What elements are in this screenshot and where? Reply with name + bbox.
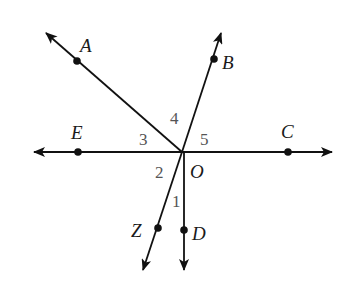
point-b	[210, 55, 218, 63]
label-angle-5: 5	[200, 130, 209, 149]
label-angle-3: 3	[139, 130, 148, 149]
label-angle-4: 4	[170, 109, 179, 128]
ray-oa	[46, 33, 182, 152]
label-point-c: C	[281, 121, 294, 142]
label-point-e: E	[70, 122, 83, 143]
point-a	[73, 57, 81, 65]
point-d	[180, 226, 188, 234]
label-point-o: O	[190, 161, 204, 182]
label-angle-1: 1	[172, 192, 181, 211]
point-c	[284, 148, 292, 156]
label-point-a: A	[78, 35, 92, 56]
point-e	[74, 148, 82, 156]
label-point-z: Z	[131, 220, 142, 241]
geometry-diagram: A B C E O Z D 1 2 3 4 5	[0, 0, 349, 292]
label-point-d: D	[191, 223, 206, 244]
label-angle-2: 2	[155, 163, 164, 182]
point-z	[154, 224, 162, 232]
label-point-b: B	[222, 52, 234, 73]
